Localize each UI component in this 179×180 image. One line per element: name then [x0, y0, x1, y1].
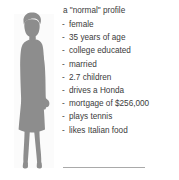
- bullet-dash-icon: -: [62, 71, 65, 84]
- trait-item-education: - college educated: [62, 44, 179, 57]
- trait-label: married: [69, 60, 97, 69]
- trait-item-female: - female: [62, 18, 179, 31]
- trait-label: female: [69, 20, 94, 29]
- trait-label: mortgage of $256,000: [69, 99, 149, 108]
- trait-label: likes Italian food: [69, 126, 128, 135]
- trait-item-mortgage: - mortgage of $256,000: [62, 97, 179, 110]
- illustration-panel: [8, 10, 60, 170]
- bullet-dash-icon: -: [62, 58, 65, 71]
- bullet-dash-icon: -: [62, 44, 65, 57]
- trait-item-children: - 2.7 children: [62, 71, 179, 84]
- bullet-dash-icon: -: [62, 97, 65, 110]
- trait-item-sport: - plays tennis: [62, 110, 179, 123]
- trait-label: 2.7 children: [69, 73, 111, 82]
- trait-item-car: - drives a Honda: [62, 84, 179, 97]
- trait-item-age: - 35 years of age: [62, 31, 179, 44]
- bullet-dash-icon: -: [62, 18, 65, 31]
- woman-silhouette-icon: [8, 10, 60, 170]
- trait-item-food: - likes Italian food: [62, 124, 179, 137]
- profile-title: a "normal" profile: [63, 5, 179, 16]
- trait-label: 35 years of age: [69, 33, 125, 42]
- slide-canvas: a "normal" profile - female - 35 years o…: [0, 0, 179, 180]
- trait-item-marital-status: - married: [62, 58, 179, 71]
- bullet-dash-icon: -: [62, 124, 65, 137]
- profile-trait-list: - female - 35 years of age - college edu…: [62, 18, 179, 137]
- bullet-dash-icon: -: [62, 110, 65, 123]
- bullet-dash-icon: -: [62, 31, 65, 44]
- dotted-rule-icon: [63, 166, 145, 169]
- trait-label: drives a Honda: [69, 86, 124, 95]
- bullet-dash-icon: -: [62, 84, 65, 97]
- trait-label: plays tennis: [69, 112, 112, 121]
- profile-text-block: a "normal" profile - female - 35 years o…: [62, 5, 179, 137]
- trait-label: college educated: [69, 46, 131, 55]
